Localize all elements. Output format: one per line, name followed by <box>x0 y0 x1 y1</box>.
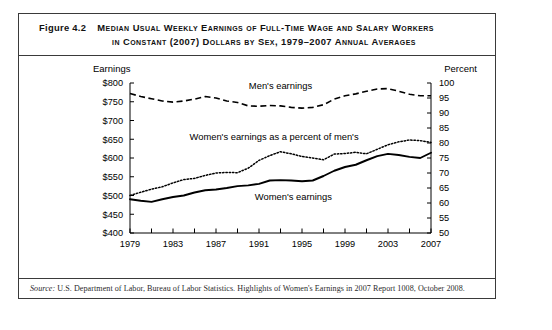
svg-text:2003: 2003 <box>378 239 398 249</box>
figure-title-text-1: Median Usual Weekly Earnings of Full-Tim… <box>97 22 434 33</box>
svg-text:1979: 1979 <box>120 239 140 249</box>
svg-text:80: 80 <box>439 138 449 148</box>
figure-container: Figure 4.2Median Usual Weekly Earnings o… <box>18 13 496 299</box>
y-axis-right-tick-labels: 10095908580757065605550 <box>439 78 454 238</box>
svg-text:75: 75 <box>439 153 449 163</box>
svg-text:$650: $650 <box>103 135 123 145</box>
svg-text:70: 70 <box>439 168 449 178</box>
svg-text:1995: 1995 <box>292 239 312 249</box>
svg-text:55: 55 <box>439 213 449 223</box>
svg-text:90: 90 <box>439 108 449 118</box>
svg-text:$600: $600 <box>103 153 123 163</box>
line-chart: $800$750$700$650$600$550$500$450$400 100… <box>19 56 497 261</box>
figure-title-line-1: Figure 4.2Median Usual Weekly Earnings o… <box>33 21 481 35</box>
svg-text:50: 50 <box>439 228 449 238</box>
svg-text:$800: $800 <box>103 78 123 88</box>
svg-text:1999: 1999 <box>335 239 355 249</box>
series-earnings-ratio <box>130 140 431 196</box>
figure-title-block: Figure 4.2Median Usual Weekly Earnings o… <box>19 14 495 56</box>
y-axis-left-tick-labels: $800$750$700$650$600$550$500$450$400 <box>103 78 123 238</box>
svg-text:$450: $450 <box>103 210 123 220</box>
plot-block: Earnings Percent $800$750$700$650$600$55… <box>19 56 495 261</box>
svg-text:$550: $550 <box>103 172 123 182</box>
svg-text:$700: $700 <box>103 116 123 126</box>
svg-text:95: 95 <box>439 93 449 103</box>
svg-text:85: 85 <box>439 123 449 133</box>
label-mens-earnings: Men's earnings <box>249 80 313 91</box>
label-earnings-ratio: Women's earnings as a percent of men's <box>189 131 358 142</box>
svg-text:1991: 1991 <box>249 239 269 249</box>
source-note: Source: U.S. Department of Labor, Bureau… <box>30 284 485 293</box>
svg-text:1987: 1987 <box>206 239 226 249</box>
svg-text:$500: $500 <box>103 191 123 201</box>
svg-text:$750: $750 <box>103 97 123 107</box>
source-body: U.S. Department of Labor, Bureau of Labo… <box>57 284 465 293</box>
svg-text:60: 60 <box>439 198 449 208</box>
figure-number: Figure 4.2 <box>39 22 86 33</box>
svg-text:100: 100 <box>439 78 454 88</box>
series-mens-earnings <box>130 89 431 109</box>
source-label: Source: <box>30 284 55 293</box>
figure-title-line-2: in Constant (2007) Dollars by Sex, 1979–… <box>33 35 481 49</box>
svg-text:$400: $400 <box>103 228 123 238</box>
svg-text:1983: 1983 <box>163 239 183 249</box>
svg-text:2007: 2007 <box>421 239 441 249</box>
label-womens-earnings: Women's earnings <box>255 191 332 202</box>
x-axis-tick-labels: 19791983198719911995199920032007 <box>120 239 441 249</box>
svg-text:65: 65 <box>439 183 449 193</box>
source-block: Source: U.S. Department of Labor, Bureau… <box>19 278 495 298</box>
